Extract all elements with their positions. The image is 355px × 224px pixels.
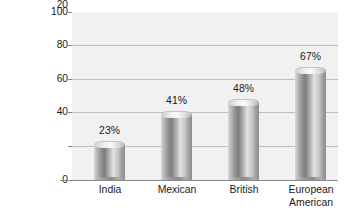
x-tick-label-european-american: European American bbox=[281, 184, 341, 209]
x-tick-label-india: India bbox=[80, 184, 140, 197]
bar-top-cap bbox=[228, 99, 259, 106]
y-tick-label-60: 60 bbox=[40, 74, 68, 84]
bar-mexican[interactable] bbox=[161, 111, 192, 180]
y-axis-tick-labels: 100 80 60 40 20 0 bbox=[40, 0, 68, 224]
data-label-mexican: 41% bbox=[166, 96, 187, 106]
plot-area bbox=[72, 12, 338, 180]
bar-body bbox=[228, 102, 259, 180]
bar-chart-figure: Percentage of families with high express… bbox=[0, 0, 355, 224]
x-axis-tick-labels: India Mexican British European American bbox=[72, 184, 338, 224]
bar-body bbox=[295, 70, 326, 180]
bar-body bbox=[94, 144, 125, 180]
bar-body bbox=[161, 114, 192, 180]
x-tick-label-mexican: Mexican bbox=[147, 184, 207, 197]
bar-european-american[interactable] bbox=[295, 67, 326, 180]
y-tick-label-20: 20 bbox=[40, 0, 68, 10]
bar-india[interactable] bbox=[94, 141, 125, 180]
bar-top-cap bbox=[94, 141, 125, 148]
data-label-india: 23% bbox=[99, 126, 120, 136]
bar-british[interactable] bbox=[228, 99, 259, 180]
x-tick-label-british: British bbox=[214, 184, 274, 197]
y-tick-label-40: 40 bbox=[40, 107, 68, 117]
gridline-80 bbox=[72, 45, 338, 46]
y-tick-label-80: 80 bbox=[40, 40, 68, 50]
data-label-european-american: 67% bbox=[300, 52, 321, 62]
data-label-british: 48% bbox=[233, 84, 254, 94]
bar-top-cap bbox=[295, 67, 326, 74]
x-axis-line bbox=[60, 180, 338, 181]
bar-top-cap bbox=[161, 111, 192, 118]
